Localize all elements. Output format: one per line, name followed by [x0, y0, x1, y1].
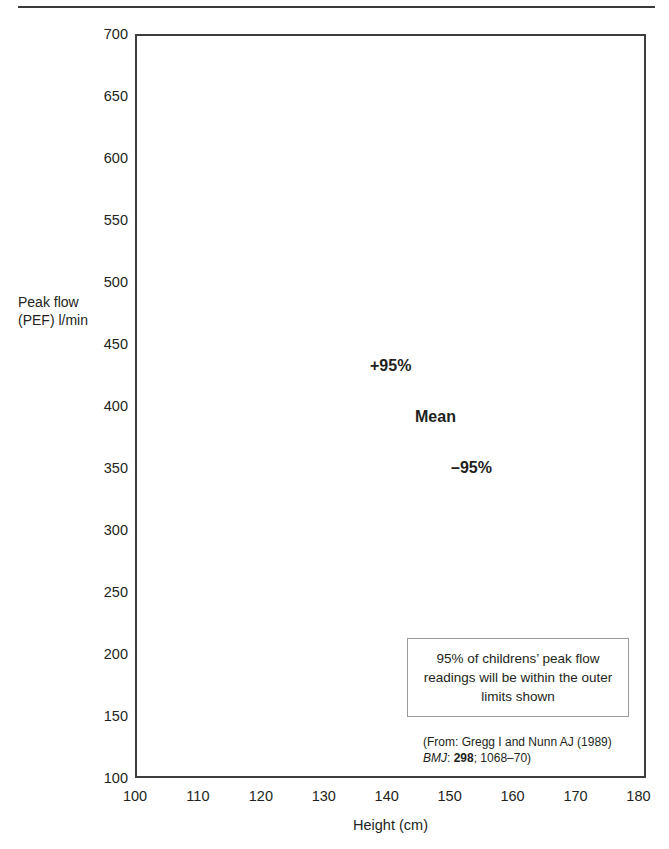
series-label-minus95: –95% [448, 458, 495, 478]
y-tick-label-650: 650 [84, 89, 128, 104]
x-tick-label-120: 120 [231, 789, 291, 804]
source-pages: ; 1068–70) [474, 751, 531, 765]
source-volume: 298 [454, 751, 474, 765]
source-line-1: (From: Gregg I and Nunn AJ (1989) [423, 734, 653, 750]
figure-page: Peak flow (PEF) l/min 100150200250300350… [0, 0, 669, 849]
y-tick-label-550: 550 [84, 213, 128, 228]
y-tick-label-200: 200 [84, 647, 128, 662]
y-tick-label-500: 500 [84, 275, 128, 290]
y-tick-label-400: 400 [84, 399, 128, 414]
source-journal: BMJ [423, 751, 447, 765]
x-tick-label-110: 110 [168, 789, 228, 804]
source-line-2: BMJ: 298; 1068–70) [423, 750, 653, 766]
y-tick-label-700: 700 [84, 27, 128, 42]
callout-box: 95% of childrens’ peak flow readings wil… [407, 638, 629, 717]
series-label-mean: Mean [412, 407, 459, 427]
y-tick-label-100: 100 [84, 771, 128, 786]
top-divider-rule [18, 6, 655, 8]
y-tick-label-350: 350 [84, 461, 128, 476]
source-citation: (From: Gregg I and Nunn AJ (1989) BMJ: 2… [423, 734, 653, 766]
y-tick-label-450: 450 [84, 337, 128, 352]
y-axis-tick-labels: 100150200250300350400450500550600650700 [84, 34, 128, 778]
y-tick-label-600: 600 [84, 151, 128, 166]
y-tick-label-150: 150 [84, 709, 128, 724]
x-tick-label-160: 160 [483, 789, 543, 804]
callout-text: 95% of childrens’ peak flow readings wil… [408, 649, 628, 706]
x-axis-label: Height (cm) [135, 817, 646, 833]
x-tick-label-100: 100 [105, 789, 165, 804]
x-tick-label-140: 140 [357, 789, 417, 804]
x-tick-label-150: 150 [420, 789, 480, 804]
x-tick-label-130: 130 [294, 789, 354, 804]
y-tick-label-300: 300 [84, 523, 128, 538]
plot-area: +95% Mean –95% 95% of childrens’ peak fl… [135, 34, 646, 778]
x-tick-label-170: 170 [546, 789, 606, 804]
source-sep: : [447, 751, 454, 765]
y-tick-label-250: 250 [84, 585, 128, 600]
x-tick-label-180: 180 [608, 789, 668, 804]
x-axis-tick-labels: 100110120130140150160170180 [135, 789, 646, 809]
series-label-plus95: +95% [367, 356, 414, 376]
